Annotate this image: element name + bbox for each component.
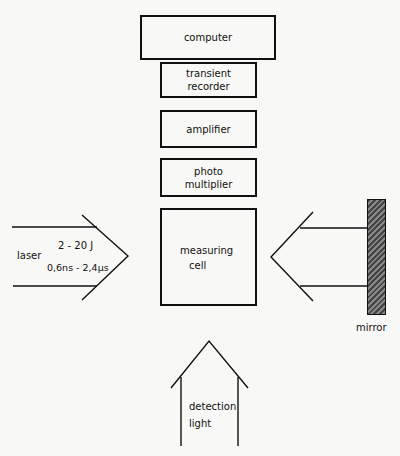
detection-light-arrow bbox=[171, 341, 248, 446]
transient-recorder-label-2: recorder bbox=[187, 80, 229, 93]
transient-recorder-box: transient recorder bbox=[160, 62, 257, 98]
photo-multiplier-label-1: photo bbox=[194, 165, 223, 178]
mirror-label: mirror bbox=[356, 322, 387, 334]
measuring-cell-box: measuring cell bbox=[160, 208, 257, 306]
photo-multiplier-label-2: multiplier bbox=[185, 178, 233, 191]
amplifier-box: amplifier bbox=[160, 110, 257, 148]
laser-label: laser bbox=[17, 250, 41, 262]
computer-box: computer bbox=[140, 15, 276, 60]
photo-multiplier-box: photo multiplier bbox=[160, 158, 257, 197]
transient-recorder-label-1: transient bbox=[186, 67, 231, 80]
detection-light-label-2: light bbox=[189, 418, 211, 430]
measuring-cell-label-1: measuring bbox=[180, 244, 233, 257]
laser-energy: 2 - 20 J bbox=[58, 240, 93, 252]
laser-pulse-duration: 0,6ns - 2,4µs bbox=[47, 262, 109, 274]
measuring-cell-label-2: cell bbox=[189, 259, 206, 272]
reflected-arrow bbox=[271, 212, 367, 301]
amplifier-label: amplifier bbox=[186, 123, 230, 136]
mirror-block bbox=[367, 199, 386, 315]
detection-light-label-1: detection bbox=[189, 401, 236, 413]
computer-label: computer bbox=[184, 31, 232, 44]
